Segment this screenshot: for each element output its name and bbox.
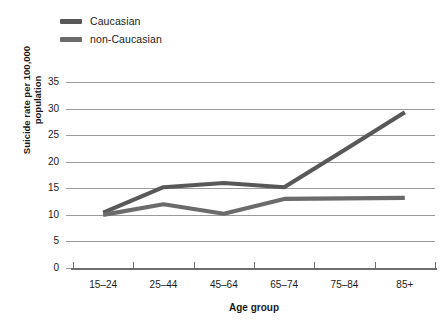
x-tick-label: 25–44 (134, 279, 194, 290)
legend-label: non-Caucasian (90, 34, 162, 45)
y-tick-label: 5 (33, 236, 59, 246)
y-tick-label: 35 (33, 77, 59, 87)
x-tick-mark (254, 262, 255, 269)
legend-swatch-icon (60, 19, 82, 24)
y-tick-label: 20 (33, 157, 59, 167)
x-tick-label: 85+ (375, 279, 435, 290)
y-tick-label: 10 (33, 210, 59, 220)
y-tick-mark (66, 162, 73, 163)
chart-legend: Caucasian non-Caucasian (60, 14, 162, 50)
x-axis-title: Age group (73, 302, 435, 314)
y-tick-mark (66, 82, 73, 83)
legend-item-caucasian: Caucasian (60, 14, 162, 29)
y-tick-mark (66, 241, 73, 242)
y-tick-label: 30 (33, 104, 59, 114)
x-tick-mark (73, 262, 74, 269)
series-line-non-caucasian (103, 198, 405, 215)
x-tick-label: 65–74 (254, 279, 314, 290)
plot-area (73, 82, 435, 268)
x-tick-label: 45–64 (194, 279, 254, 290)
x-tick-mark (133, 262, 134, 269)
y-tick-label: 15 (33, 183, 59, 193)
x-tick-label: 75–84 (315, 279, 375, 290)
x-tick-mark (375, 262, 376, 269)
legend-label: Caucasian (90, 16, 141, 27)
x-tick-mark (194, 262, 195, 269)
y-tick-label: 25 (33, 130, 59, 140)
y-tick-mark (66, 188, 73, 189)
legend-item-non-caucasian: non-Caucasian (60, 32, 162, 47)
y-tick-mark (66, 215, 73, 216)
x-tick-mark (314, 262, 315, 269)
x-tick-label: 15–24 (73, 279, 133, 290)
line-chart: Caucasian non-Caucasian Suicide rate per… (0, 0, 443, 326)
legend-swatch-icon (60, 37, 82, 42)
y-tick-mark (66, 109, 73, 110)
x-tick-mark (435, 262, 436, 269)
y-tick-mark (66, 135, 73, 136)
series-layer (73, 82, 435, 268)
y-tick-label: 0 (33, 263, 59, 273)
